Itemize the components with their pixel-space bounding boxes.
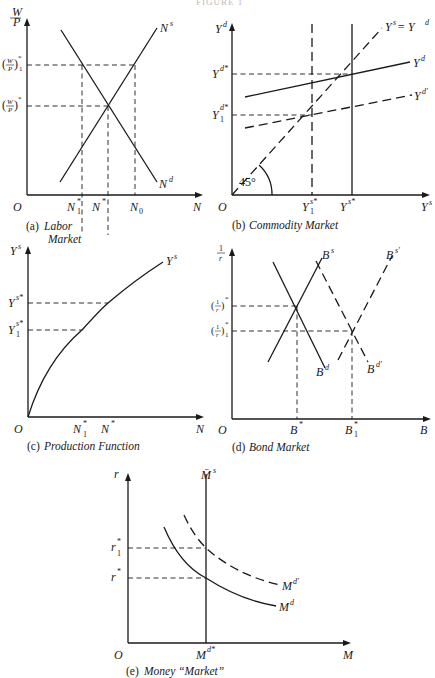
x-axis-label: B: [420, 423, 428, 437]
svg-text:s: s: [18, 242, 21, 251]
y-tick-inv-r1-star: ( 1 r ) * 1: [211, 320, 229, 339]
svg-text:Y: Y: [413, 56, 421, 70]
svg-text:Y: Y: [10, 244, 18, 258]
demand-curve-shifted: [245, 95, 412, 128]
svg-text:*: *: [225, 295, 229, 303]
svg-text:(: (: [211, 325, 215, 337]
demand-curve: [245, 62, 410, 97]
svg-text:*: *: [18, 54, 22, 62]
svg-text:W: W: [7, 57, 14, 65]
bond-demand-label: B d: [316, 363, 330, 379]
y-tick-inv-r-star: ( 1 r ) *: [211, 295, 229, 313]
svg-text:s*: s*: [16, 293, 23, 302]
svg-text:s: s: [331, 246, 334, 255]
production-function-curve: [28, 262, 163, 417]
money-demand-curve: [164, 527, 276, 606]
money-demand-curve-shifted: [184, 515, 280, 585]
x-tick-n1-star: N * 1: [66, 197, 81, 216]
y-tick-w-p-star: ( W P ) *: [2, 95, 22, 114]
origin-label: O: [218, 423, 227, 437]
y-tick-y1s-star: Y s* 1: [8, 319, 23, 339]
angle-label: 45°: [239, 175, 256, 189]
equality-label: Y s = Y d: [385, 18, 430, 34]
macro-equilibrium-figure: FIGURE 1 W P N O ( W P ) * 1 ( W P: [0, 0, 435, 678]
svg-text:B: B: [386, 248, 394, 262]
svg-text:1: 1: [83, 430, 87, 439]
svg-text:s*: s*: [16, 319, 23, 328]
x-tick-n0: N 0: [129, 200, 143, 216]
angle-arc: [259, 165, 272, 195]
panel-labor-market: W P N O ( W P ) * 1 ( W P ) *: [2, 5, 203, 245]
caption-labor-market: (a) Labor Market: [26, 220, 82, 245]
svg-text:(: (: [2, 57, 6, 71]
svg-text:1: 1: [220, 115, 224, 124]
svg-text:P: P: [7, 65, 13, 73]
svg-text:d: d: [290, 598, 295, 607]
svg-text:(e): (e): [126, 665, 139, 678]
svg-text:1: 1: [77, 207, 81, 216]
svg-text:Commodity Market: Commodity Market: [249, 219, 339, 232]
caption-bond-market: (d) Bond Market: [232, 441, 310, 454]
svg-text:r: r: [219, 254, 223, 263]
svg-text:Money “Market”: Money “Market”: [143, 665, 224, 678]
svg-text:s: s: [174, 252, 177, 261]
svg-text:*: *: [111, 419, 115, 428]
forty-five-degree-line: [232, 28, 382, 195]
svg-text:(c): (c): [27, 440, 40, 453]
bond-demand-curve: [273, 262, 325, 368]
y-axis-label: Y d: [215, 20, 228, 36]
x-tick-n-star: N *: [100, 419, 115, 436]
svg-text:*: *: [18, 95, 22, 103]
y-axis-label: 1 r: [217, 244, 225, 263]
svg-text:s′: s′: [395, 246, 400, 255]
x-tick-b-star: B *: [290, 420, 303, 437]
svg-text:1: 1: [16, 330, 20, 339]
svg-text:Y: Y: [212, 108, 220, 122]
svg-text:(d): (d): [232, 441, 246, 454]
x-axis-label: M: [342, 648, 354, 662]
panel-commodity-market: Y d Y s O Y d* Y d* 1 45° Y: [212, 18, 432, 232]
svg-text:d*: d*: [207, 645, 215, 654]
svg-text:1: 1: [310, 207, 314, 216]
svg-text:B: B: [290, 423, 298, 437]
svg-text:d*: d*: [220, 64, 228, 73]
x-tick-md-star: M d*: [195, 645, 215, 662]
bond-supply-label: B s: [322, 246, 334, 262]
svg-text:d: d: [223, 20, 228, 29]
svg-text:Bond Market: Bond Market: [249, 441, 310, 453]
x-axis-label: Y s: [421, 198, 432, 214]
svg-text:): ): [221, 325, 224, 337]
x-axis-arrow-icon: [343, 640, 351, 646]
svg-text:1: 1: [216, 323, 219, 330]
svg-text:1: 1: [117, 549, 121, 558]
x-tick-ys-star: Y s*: [340, 197, 355, 214]
svg-text:B: B: [345, 423, 353, 437]
production-curve-label: Y s: [166, 252, 177, 268]
svg-text:s: s: [170, 19, 173, 28]
svg-text:B: B: [316, 365, 324, 379]
svg-text:P: P: [7, 106, 13, 114]
svg-text:s*: s*: [348, 197, 355, 206]
x-tick-n-star: N *: [91, 197, 106, 214]
y-tick-ys-star: Y s*: [8, 293, 23, 310]
y-tick-y1d-star: Y d* 1: [212, 103, 228, 124]
origin-label: O: [218, 200, 227, 214]
money-supply-label: M̄ s: [200, 466, 216, 482]
svg-text:1: 1: [19, 65, 23, 73]
svg-text:d′: d′: [376, 360, 382, 369]
origin-label: O: [14, 422, 23, 436]
y-axis-arrow-icon: [229, 23, 235, 31]
svg-text:(b): (b): [232, 219, 246, 232]
x-tick-b1-star: B * 1: [345, 420, 358, 439]
svg-text:d: d: [425, 18, 430, 27]
svg-text:N: N: [72, 422, 82, 436]
svg-text:Y: Y: [212, 67, 220, 81]
svg-text:Y: Y: [166, 254, 174, 268]
x-tick-y1s-star: Y s* 1: [302, 197, 317, 216]
svg-text:N: N: [91, 200, 101, 214]
bond-demand-curve-shifted: [316, 261, 368, 362]
x-axis-label: N: [195, 422, 205, 436]
svg-text:(: (: [211, 300, 215, 312]
y-tick-r-star: r *: [111, 567, 121, 584]
svg-text:s*: s*: [310, 197, 317, 206]
